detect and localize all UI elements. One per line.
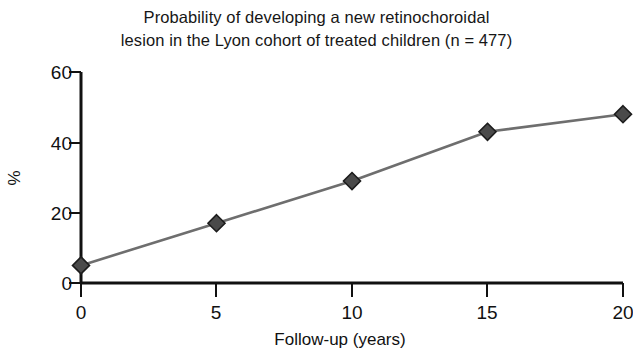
data-point-marker (479, 123, 496, 140)
x-tick-label-10: 10 (341, 302, 362, 323)
y-tick-label-20: 20 (51, 203, 72, 224)
x-tick-label-0: 0 (76, 302, 87, 323)
chart-figure: Probability of developing a new retinoch… (0, 0, 633, 351)
data-point-marker (73, 257, 90, 274)
y-tick-label-60: 60 (51, 62, 72, 83)
y-tick-label-40: 40 (51, 133, 72, 154)
y-axis-label: % (5, 170, 24, 185)
data-point-markers (73, 106, 632, 274)
x-tick-label-20: 20 (612, 302, 633, 323)
data-point-marker (344, 173, 361, 190)
x-tick-label-5: 5 (211, 302, 222, 323)
line-chart-plot: 60 40 20 0 % 0 5 10 15 20 Follow-up (yea… (0, 0, 633, 351)
data-point-marker (208, 215, 225, 232)
data-point-marker (615, 106, 632, 123)
x-tick-label-15: 15 (476, 302, 497, 323)
x-axis-label: Follow-up (years) (274, 330, 405, 349)
